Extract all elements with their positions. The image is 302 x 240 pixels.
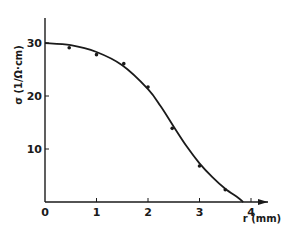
conductivity-chart: 01234 102030 r (mm) σ (1/Ω·cm) [0,0,302,240]
x-tick-label: 2 [144,206,152,219]
data-point [95,53,99,57]
data-point [146,85,150,89]
x-axis-arrow-icon [258,199,268,205]
x-tick-label: 0 [41,206,49,219]
x-tick-label: 3 [196,206,204,219]
fit-curve [45,43,243,202]
x-tick-label: 1 [93,206,101,219]
y-tick-label: 10 [27,143,43,156]
x-ticks: 01234 [41,198,255,219]
data-point [170,127,174,131]
data-points [67,46,227,192]
data-point [223,188,227,192]
y-axis-title: σ (1/Ω·cm) [13,45,24,105]
data-point [122,62,126,66]
data-point [67,46,71,50]
y-tick-label: 20 [27,90,43,103]
data-point [198,164,202,168]
y-tick-label: 30 [27,37,43,50]
x-axis-title: r (mm) [243,213,281,224]
